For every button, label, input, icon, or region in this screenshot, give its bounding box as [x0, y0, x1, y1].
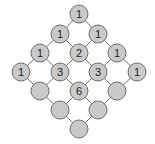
lattice-node: 1	[31, 44, 49, 62]
node-circle	[70, 120, 88, 138]
node-label: 1	[76, 8, 82, 20]
node-label: 1	[114, 47, 120, 59]
lattice-node: 2	[70, 44, 88, 62]
node-label: 3	[95, 66, 101, 78]
node-label: 3	[57, 66, 63, 78]
lattice-node: 1	[89, 25, 107, 43]
lattice-node: 1	[70, 5, 88, 23]
node-circle	[89, 101, 107, 119]
lattice-node: 1	[12, 63, 30, 81]
node-circle	[31, 82, 49, 100]
lattice-node	[108, 82, 126, 100]
node-circle	[108, 82, 126, 100]
lattice-node: 1	[108, 44, 126, 62]
lattice-node: 6	[70, 82, 88, 100]
edges-group	[21, 14, 137, 129]
node-label: 6	[76, 85, 82, 97]
node-label: 1	[37, 47, 43, 59]
lattice-node	[70, 120, 88, 138]
nodes-group: 11112113316	[12, 5, 146, 138]
lattice-node: 3	[89, 63, 107, 81]
lattice-node	[31, 82, 49, 100]
lattice-node: 1	[51, 25, 69, 43]
lattice-node	[51, 101, 69, 119]
lattice-node: 1	[128, 63, 146, 81]
node-label: 1	[18, 66, 24, 78]
node-label: 1	[134, 66, 140, 78]
lattice-node	[89, 101, 107, 119]
node-label: 2	[76, 47, 82, 59]
lattice-node: 3	[51, 63, 69, 81]
node-label: 1	[95, 28, 101, 40]
node-label: 1	[57, 28, 63, 40]
node-circle	[51, 101, 69, 119]
lattice-path-diagram: 11112113316	[0, 0, 155, 144]
